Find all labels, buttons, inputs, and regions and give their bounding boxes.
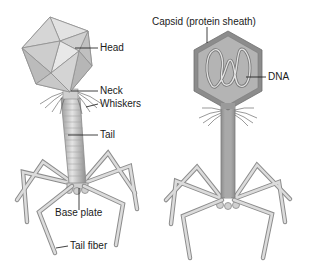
right-phage — [166, 31, 290, 258]
label-tail: Tail — [100, 130, 115, 140]
label-capsid: Capsid (protein sheath) — [152, 17, 256, 27]
label-whiskers: Whiskers — [100, 99, 141, 109]
label-base-plate: Base plate — [55, 208, 102, 218]
label-tail-fiber: Tail fiber — [70, 241, 107, 251]
label-neck: Neck — [100, 86, 123, 96]
label-head: Head — [100, 43, 124, 53]
phage-diagram — [0, 0, 311, 271]
head — [22, 17, 92, 92]
tail — [61, 98, 86, 184]
label-dna: DNA — [268, 72, 289, 82]
